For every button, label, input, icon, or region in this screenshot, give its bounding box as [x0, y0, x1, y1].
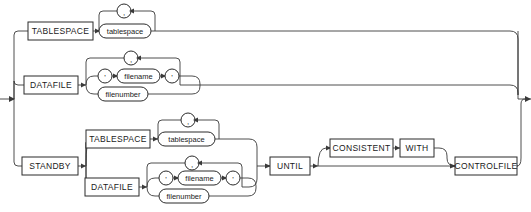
entry-rail — [0, 31, 28, 166]
railroad-diagram-svg: TABLESPACE , tablespace DATAFILE — [0, 0, 531, 212]
comma-label-2: , — [130, 55, 132, 64]
keyword-label-until: UNTIL — [277, 161, 303, 171]
branch-datafile: DATAFILE , ' filename ' filenu — [24, 51, 518, 101]
branch-standby: STANDBY TABLESPACE , tablespace — [22, 113, 257, 203]
comma-label-3: , — [187, 117, 189, 126]
nonterminal-label-filename: filename — [124, 72, 152, 81]
nonterminal-label-standby-filenumber: filenumber — [166, 192, 202, 201]
keyword-label-datafile: DATAFILE — [30, 80, 72, 90]
nonterminal-label-filenumber: filenumber — [105, 90, 141, 99]
nonterminal-label-tablespace-name: tablespace — [107, 27, 143, 36]
keyword-label-standby-tablespace: TABLESPACE — [89, 134, 147, 144]
keyword-label-standby: STANDBY — [29, 161, 71, 171]
comma-label-1: , — [123, 8, 125, 17]
nonterminal-label-standby-filename: filename — [185, 174, 213, 183]
comma-label-4: , — [191, 160, 193, 169]
railroad-diagram-canvas: TABLESPACE , tablespace DATAFILE — [0, 0, 531, 212]
keyword-label-standby-datafile: DATAFILE — [91, 182, 133, 192]
keyword-label-with: WITH — [406, 143, 429, 153]
keyword-label-tablespace: TABLESPACE — [32, 26, 90, 36]
keyword-label-controlfile: CONTROLFILE — [455, 161, 518, 171]
nonterminal-label-standby-tablespace-name: tablespace — [168, 135, 204, 144]
tail-sequence: UNTIL CONSISTENT WITH CONTROLFILE — [257, 31, 531, 175]
keyword-label-consistent: CONSISTENT — [333, 143, 391, 153]
